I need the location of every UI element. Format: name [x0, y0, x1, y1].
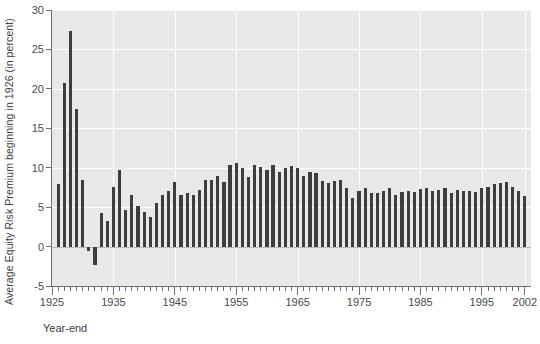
- x-tick-label: 1945: [163, 297, 187, 308]
- x-tick-label: 1995: [470, 297, 494, 308]
- x-tick-label: 2002: [513, 297, 537, 308]
- x-axis-tick-labels: 192519351945195519651975198519952002: [0, 0, 540, 344]
- x-tick-label: 1985: [408, 297, 432, 308]
- y-axis-title: Average Equity Risk Premium beginning in…: [2, 5, 16, 305]
- chart-figure: -5051015202530 1925193519451955196519751…: [0, 0, 540, 344]
- x-axis-title: Year-end: [43, 322, 87, 334]
- x-tick-label: 1975: [347, 297, 371, 308]
- x-tick-label: 1935: [101, 297, 125, 308]
- x-tick-label: 1955: [224, 297, 248, 308]
- x-tick-label: 1965: [285, 297, 309, 308]
- x-tick-label: 1925: [40, 297, 64, 308]
